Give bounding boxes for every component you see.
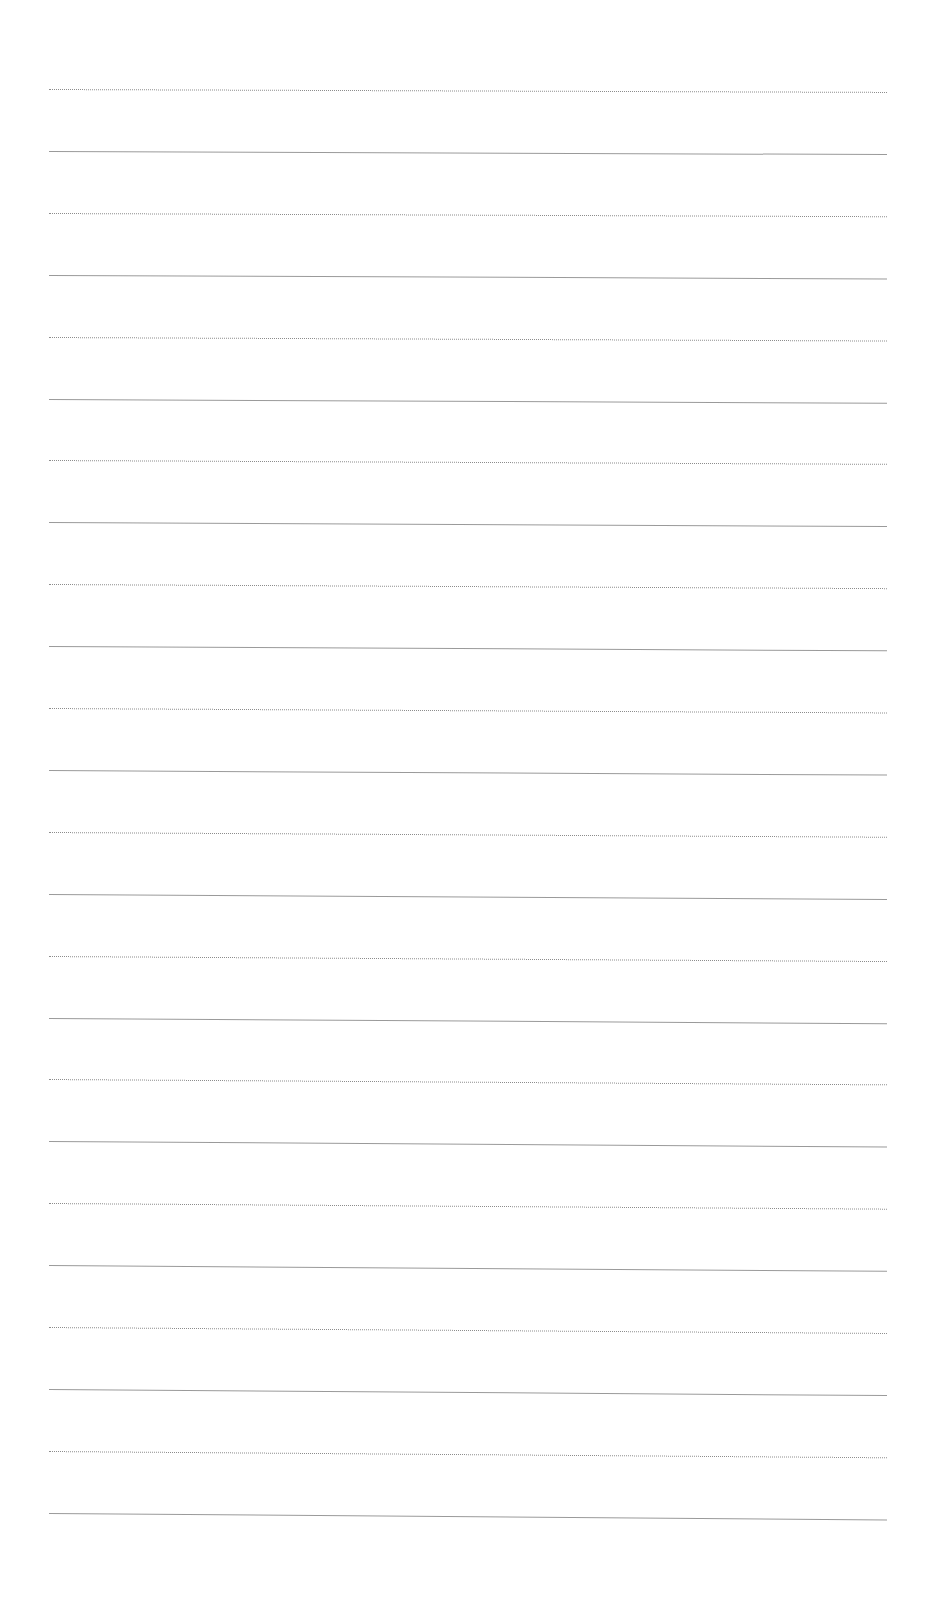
ruled-line <box>49 460 887 465</box>
ruled-line <box>49 1141 887 1148</box>
ruled-line <box>49 399 887 404</box>
ruled-line <box>49 1079 887 1085</box>
ruled-line <box>49 832 887 838</box>
ruled-line <box>49 1451 887 1458</box>
ruled-line <box>49 1265 887 1272</box>
ruled-line <box>49 337 887 342</box>
ruled-line <box>49 151 887 155</box>
ruled-line <box>49 522 887 527</box>
ruled-line <box>49 1203 887 1210</box>
ruled-line <box>49 894 887 900</box>
ruled-line <box>49 1327 887 1334</box>
ruled-line <box>49 1513 887 1520</box>
ruled-line <box>49 956 887 962</box>
ruled-line <box>49 213 887 217</box>
ruled-line <box>49 275 887 279</box>
ruled-paper-sheet <box>0 0 931 1605</box>
ruled-line <box>49 646 887 651</box>
ruled-line <box>49 584 887 589</box>
ruled-line <box>49 1018 887 1024</box>
ruled-line <box>49 89 887 93</box>
ruled-line <box>49 770 887 776</box>
ruled-line <box>49 1389 887 1396</box>
ruled-line <box>49 708 887 713</box>
